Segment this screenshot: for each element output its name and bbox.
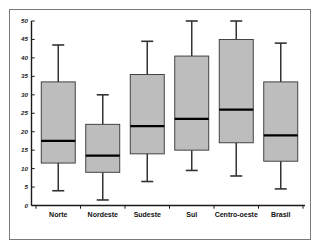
figure: 05101520253035404550 NorteNordesteSudest… xyxy=(0,0,321,250)
y-tick-label: 30 xyxy=(21,91,28,98)
box-plot-item xyxy=(41,45,75,191)
x-category-label: Nordeste xyxy=(88,211,118,218)
box-rect xyxy=(86,124,120,172)
x-category-label: Norte xyxy=(49,211,67,218)
y-tick-label: 0 xyxy=(25,202,29,209)
x-axis-category-labels: NorteNordesteSudesteSulCentro-oesteBrasi… xyxy=(49,211,290,218)
y-tick-label: 15 xyxy=(21,146,28,153)
boxplot-chart: 05101520253035404550 NorteNordesteSudest… xyxy=(0,0,321,250)
x-category-label: Sudeste xyxy=(134,211,161,218)
box-plot-item xyxy=(86,95,120,200)
box-plot-item xyxy=(264,43,298,189)
box-rect xyxy=(175,56,209,150)
y-axis-tick-labels: 05101520253035404550 xyxy=(20,17,28,209)
box-rect xyxy=(219,39,253,142)
y-tick-label: 10 xyxy=(21,165,28,172)
box-plot-item xyxy=(175,21,209,170)
x-category-label: Centro-oeste xyxy=(215,211,258,218)
box-plot-item xyxy=(130,41,164,181)
x-category-label: Brasil xyxy=(271,211,291,218)
y-tick-label: 20 xyxy=(20,128,28,135)
y-tick-label: 45 xyxy=(20,35,28,42)
box-plot-item xyxy=(219,21,253,176)
x-category-label: Sul xyxy=(186,211,197,218)
y-tick-label: 50 xyxy=(21,17,28,24)
y-tick-label: 35 xyxy=(21,72,28,79)
box-rect xyxy=(41,82,75,163)
y-tick-label: 25 xyxy=(20,109,28,116)
chart-canvas: 05101520253035404550 NorteNordesteSudest… xyxy=(0,0,321,250)
box-rect xyxy=(264,82,298,161)
y-tick-label: 5 xyxy=(25,183,29,190)
box-series xyxy=(41,21,298,200)
box-rect xyxy=(130,75,164,154)
y-tick-label: 40 xyxy=(20,54,28,61)
